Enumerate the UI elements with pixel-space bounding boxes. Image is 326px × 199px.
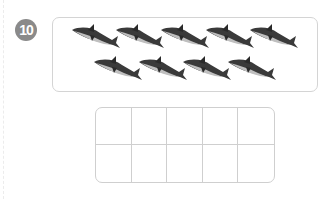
ten-frame-cell[interactable] <box>238 145 274 182</box>
ten-frame-cell[interactable] <box>203 108 239 145</box>
ten-frame-cell[interactable] <box>238 108 274 145</box>
problem-number-badge: 10 <box>15 19 37 41</box>
ten-frame-cell[interactable] <box>96 108 132 145</box>
ten-frame-cell[interactable] <box>203 145 239 182</box>
shark-picture-box <box>52 17 318 92</box>
ten-frame-cell[interactable] <box>96 145 132 182</box>
shark-icon <box>226 56 278 84</box>
ten-frame-cell[interactable] <box>167 145 203 182</box>
ten-frame-cell[interactable] <box>132 145 168 182</box>
ten-frame-cell[interactable] <box>167 108 203 145</box>
shark-icon <box>248 24 300 52</box>
ten-frame-grid <box>95 107 275 183</box>
ten-frame-cell[interactable] <box>132 108 168 145</box>
page-margin-line <box>3 0 4 199</box>
